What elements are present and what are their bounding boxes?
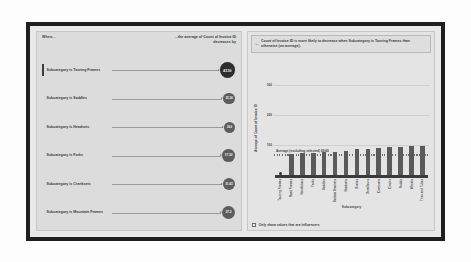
influencer-value-bubble[interactable]: 35.24 — [223, 93, 235, 105]
bar-column[interactable] — [286, 73, 297, 175]
influencer-connector-line — [112, 156, 221, 157]
left-arrow-icon: ← — [255, 41, 260, 46]
influencer-label: Subcategory is Forks — [47, 153, 109, 158]
influencer-value-bubble[interactable]: 31.43 — [223, 178, 235, 190]
x-tick-text: Pedals — [399, 179, 403, 188]
influencer-value-bubble[interactable]: 4110 — [220, 62, 236, 78]
key-influencers-right-panel: ← Count of Invoice ID is more likely to … — [247, 31, 435, 231]
influencer-connector-line — [112, 127, 223, 128]
x-tick-label: Cranksets — [373, 179, 384, 205]
bar-column[interactable] — [395, 73, 406, 175]
influencer-label: Subcategory is Touring Frames — [47, 68, 109, 73]
bar-column[interactable] — [373, 73, 384, 175]
chart-x-axis-title: Subcategory — [275, 205, 428, 209]
influencer-value-bubble[interactable]: 26.9 — [224, 122, 235, 133]
bar-column[interactable] — [308, 73, 319, 175]
x-tick-label: Tires and Tubes — [417, 179, 428, 205]
bar-column[interactable] — [330, 73, 341, 175]
x-tick-text: Touring Frames — [278, 179, 282, 201]
y-axis-title-text: Average of Count of Invoice ID — [254, 104, 258, 152]
influencer-connector-line — [112, 99, 222, 100]
x-tick-label: Forks — [308, 179, 319, 205]
influencer-row[interactable]: Subcategory is Saddles35.24 — [42, 85, 237, 114]
x-tick-text: Brakes — [355, 179, 359, 189]
only-influencers-toggle[interactable]: Only show values that are influencers — [252, 223, 320, 227]
x-tick-text: Saddles — [322, 179, 326, 190]
key-influencers-left-panel: When... ...the average of Count of Invoi… — [36, 31, 242, 231]
chart-y-axis-title: Average of Count of Invoice ID — [252, 93, 260, 163]
bar[interactable] — [409, 146, 414, 175]
influencer-label: Subcategory is Mountain Frames — [47, 210, 109, 215]
header-when-label: When... — [42, 35, 55, 39]
y-tick-label: 300 — [261, 83, 272, 87]
checkbox-icon[interactable] — [252, 223, 256, 227]
header-effect-label: ...the average of Count of Invoice ID de… — [162, 35, 236, 45]
chart-plot-area: 100200300 Average (excluding selected) 6… — [261, 57, 430, 207]
influencer-connector-line — [112, 184, 222, 185]
insight-callout-text: Count of Invoice ID is more likely to de… — [261, 39, 427, 50]
bar[interactable] — [322, 152, 327, 175]
y-tick-label: 200 — [261, 113, 272, 117]
chart-x-axis-rule — [275, 175, 428, 177]
x-tick-label: Brakes — [351, 179, 362, 205]
bar[interactable] — [344, 151, 349, 175]
screenshot-root: When... ...the average of Count of Invoi… — [0, 0, 471, 262]
influencer-row[interactable]: Subcategory is Headsets26.9 — [42, 113, 237, 142]
influencer-row[interactable]: Subcategory is Mountain Frames37.2 — [42, 199, 237, 228]
x-tick-text: Wheels — [410, 179, 414, 189]
bar-column[interactable] — [297, 73, 308, 175]
x-tick-text: Derailleurs — [366, 179, 370, 194]
x-tick-label: Touring Frames — [275, 179, 286, 205]
x-tick-text: Forks — [311, 179, 315, 187]
influencer-row[interactable]: Subcategory is Cranksets31.43 — [42, 170, 237, 199]
bar-column[interactable] — [351, 73, 362, 175]
bar[interactable] — [398, 147, 403, 175]
x-tick-label: Pedals — [395, 179, 406, 205]
x-tick-label: Saddles — [319, 179, 330, 205]
bar[interactable] — [333, 152, 338, 175]
influencer-row[interactable]: Subcategory is Bottom Brackets31.46 — [42, 227, 237, 231]
bar[interactable] — [311, 153, 316, 175]
influencer-value-bubble[interactable]: 17.32 — [222, 149, 235, 162]
influencer-value-text: 17.32 — [225, 153, 233, 157]
bar[interactable] — [366, 149, 371, 175]
bar[interactable] — [420, 146, 425, 175]
insight-callout: ← Count of Invoice ID is more likely to … — [251, 35, 431, 53]
bar[interactable] — [289, 154, 294, 175]
influencer-value-text: 4110 — [223, 68, 231, 73]
bar[interactable] — [355, 149, 360, 175]
x-tick-text: Bottom Brackets — [333, 179, 337, 202]
influencer-label: Subcategory is Cranksets — [47, 182, 109, 187]
bar-column[interactable] — [275, 73, 286, 175]
x-tick-label: Road Frames — [286, 179, 297, 205]
influencer-connector-line — [112, 70, 219, 71]
bar[interactable] — [387, 147, 392, 175]
visual-frame: When... ...the average of Count of Invoi… — [26, 22, 445, 241]
x-tick-label: Chains — [384, 179, 395, 205]
bar[interactable] — [300, 153, 305, 175]
bar[interactable] — [376, 148, 381, 175]
x-tick-label: Wheels — [406, 179, 417, 205]
influencer-row[interactable]: Subcategory is Touring Frames4110 — [42, 56, 237, 85]
bar-column[interactable] — [341, 73, 352, 175]
x-tick-label: Derailleurs — [362, 179, 373, 205]
x-tick-text: Cranksets — [377, 179, 381, 193]
x-tick-text: Headsets — [344, 179, 348, 192]
left-panel-header: When... ...the average of Count of Invoi… — [37, 32, 241, 56]
bar-column[interactable] — [406, 73, 417, 175]
bar-column[interactable] — [319, 73, 330, 175]
influencer-label: Subcategory is Saddles — [47, 96, 109, 101]
influencer-connector-line — [112, 213, 221, 214]
influencer-value-text: 31.43 — [225, 182, 233, 186]
bar-column[interactable] — [417, 73, 428, 175]
x-tick-text: Tires and Tubes — [420, 179, 424, 201]
influencer-value-text: 35.24 — [225, 96, 232, 100]
x-tick-label: Handlebars — [297, 179, 308, 205]
bar-column[interactable] — [384, 73, 395, 175]
influencer-value-text: 26.9 — [227, 125, 232, 129]
influencer-value-bubble[interactable]: 37.2 — [222, 206, 235, 219]
influencer-row[interactable]: Subcategory is Forks17.32 — [42, 142, 237, 171]
bar-column[interactable] — [362, 73, 373, 175]
x-tick-text: Road Frames — [289, 179, 293, 197]
influencer-list: Subcategory is Touring Frames4110Subcate… — [37, 56, 241, 231]
